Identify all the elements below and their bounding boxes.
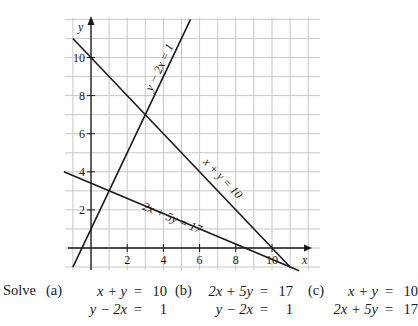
part-b-eq1-lhs: 2x + 5y (195, 282, 253, 300)
part-c-label: (c) (308, 282, 324, 299)
y-axis-arrow-icon (88, 16, 95, 25)
part-a-eq2-lhs: y − 2x (72, 300, 127, 318)
line-label-x-plus-y: x + y = 10 (200, 154, 246, 201)
equals-sign: = (378, 300, 400, 318)
equals-sign: = (253, 300, 275, 318)
x-axis-label: x (301, 253, 308, 267)
y-axis-label: y (77, 20, 84, 34)
x-tick-label: 6 (197, 253, 203, 267)
problem-statement: Solve (a) x + y=10 y − 2x=1 (b) 2x + 5y=… (0, 276, 416, 326)
part-a-eq1-rhs: 10 (149, 282, 167, 300)
part-b-system: 2x + 5y=17 y − 2x=1 (195, 282, 293, 318)
solve-prompt: Solve (3, 282, 36, 299)
equals-sign: = (127, 300, 149, 318)
part-c-eq1-rhs: 10 (400, 282, 418, 300)
x-tick-label: 8 (233, 253, 239, 267)
equals-sign: = (378, 282, 400, 300)
coordinate-graph: 246810246810xyy − 2x = 1x + y = 102x + 5… (0, 0, 416, 276)
y-tick-label: 8 (79, 89, 85, 103)
x-tick-label: 4 (160, 253, 166, 267)
part-c-eq2-lhs: 2x + 5y (330, 300, 378, 318)
part-b-eq2-rhs: 1 (275, 300, 293, 318)
line-label-2x-plus-5y: 2x + 5y = 17 (141, 199, 205, 237)
part-a-system: x + y=10 y − 2x=1 (72, 282, 167, 318)
part-c-system: x + y=10 2x + 5y=17 (330, 282, 418, 318)
part-a-eq2-rhs: 1 (149, 300, 167, 318)
equals-sign: = (253, 282, 275, 300)
equals-sign: = (127, 282, 149, 300)
part-b-eq1-rhs: 17 (275, 282, 293, 300)
part-b-label: (b) (175, 282, 192, 299)
part-a-eq1-lhs: x + y (72, 282, 127, 300)
part-c-eq2-rhs: 17 (400, 300, 418, 318)
x-tick-label: 2 (124, 253, 130, 267)
x-tick-label: 10 (266, 253, 278, 267)
y-tick-label: 2 (79, 203, 85, 217)
part-c-eq1-lhs: x + y (330, 282, 378, 300)
part-a-label: (a) (46, 282, 62, 299)
y-tick-label: 6 (79, 127, 85, 141)
y-tick-label: 10 (73, 51, 85, 65)
part-b-eq2-lhs: y − 2x (195, 300, 253, 318)
y-tick-label: 4 (79, 165, 85, 179)
